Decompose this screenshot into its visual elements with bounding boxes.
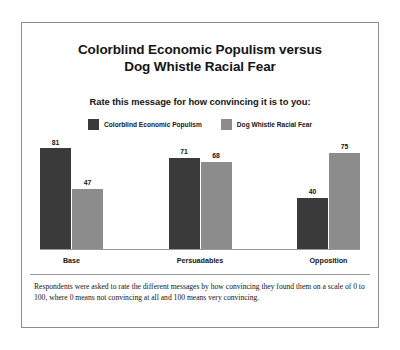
bar-value-label: 40 xyxy=(309,189,317,196)
bar-value-label: 75 xyxy=(341,144,349,151)
chart-title-line-2: Dog Whistle Racial Fear xyxy=(22,58,378,75)
bar-slot: 40 xyxy=(297,140,328,249)
bar-rect-dogwhistle xyxy=(329,153,360,249)
bar-rect-populism xyxy=(297,198,328,249)
chart-footnote: Respondents were asked to rate the diffe… xyxy=(34,281,366,303)
bar-group-persuadables: 71 68 xyxy=(169,140,232,249)
bar-rect-dogwhistle xyxy=(201,162,232,249)
bar-value-label: 81 xyxy=(52,140,60,147)
legend-swatch-icon-populism xyxy=(88,119,99,130)
chart-subtitle: Rate this message for how convincing it … xyxy=(22,96,378,107)
axis-baseline xyxy=(40,249,360,250)
plot-area: 81 47 71 68 40 xyxy=(40,140,360,250)
bar-value-label: 68 xyxy=(212,153,220,160)
footnote-divider xyxy=(30,274,370,275)
chart-title-line-1: Colorblind Economic Populism versus xyxy=(22,41,378,58)
bar-value-label: 47 xyxy=(84,180,92,187)
bar-slot: 68 xyxy=(201,140,232,249)
bar-groups: 81 47 71 68 40 xyxy=(40,140,360,249)
category-label-base: Base xyxy=(40,256,103,265)
bar-value-label: 71 xyxy=(180,149,188,156)
bar-group-opposition: 40 75 xyxy=(297,140,360,249)
legend-entry-dogwhistle: Dog Whistle Racial Fear xyxy=(221,119,312,130)
bar-slot: 75 xyxy=(329,140,360,249)
legend-swatch-icon-dogwhistle xyxy=(221,119,232,130)
bar-slot: 81 xyxy=(40,140,71,249)
bar-slot: 47 xyxy=(72,140,103,249)
chart-legend: Colorblind Economic Populism Dog Whistle… xyxy=(22,119,378,130)
legend-label-populism: Colorblind Economic Populism xyxy=(104,121,202,128)
category-label-opposition: Opposition xyxy=(297,256,360,265)
bar-group-base: 81 47 xyxy=(40,140,103,249)
chart-title: Colorblind Economic Populism versus Dog … xyxy=(22,41,378,76)
legend-label-dogwhistle: Dog Whistle Racial Fear xyxy=(237,121,312,128)
chart-figure-frame: Colorblind Economic Populism versus Dog … xyxy=(21,22,379,328)
category-axis: Base Persuadables Opposition xyxy=(40,256,360,265)
bar-rect-dogwhistle xyxy=(72,189,103,249)
legend-entry-populism: Colorblind Economic Populism xyxy=(88,119,202,130)
category-label-persuadables: Persuadables xyxy=(169,256,232,265)
bar-rect-populism xyxy=(40,148,71,248)
bar-slot: 71 xyxy=(169,140,200,249)
bar-rect-populism xyxy=(169,158,200,249)
